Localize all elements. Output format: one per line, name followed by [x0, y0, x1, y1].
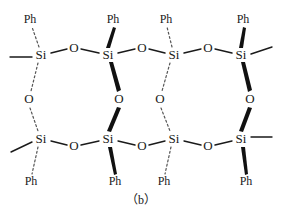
atom-label-o-top-3: O — [203, 40, 212, 55]
bond-si-top4-obridge4-wedge — [241, 62, 252, 92]
atom-label-o-bottom-3: O — [203, 138, 212, 153]
atom-label-o-bridge-2: O — [114, 91, 123, 106]
bond-obridge4-si-bottom4-wedge — [239, 107, 252, 132]
bond-o3-si4-top — [215, 49, 232, 53]
substituent-label-ph-bottom-1: Ph — [25, 174, 38, 188]
substituent-label-ph-top-4: Ph — [237, 12, 250, 26]
bond-si3-o3-bottom — [184, 141, 201, 145]
bond-o1-si2-bottom — [81, 141, 99, 145]
atom-label-si-bottom-1: Si — [36, 131, 47, 146]
bond-si2-o2-bottom — [118, 141, 135, 145]
bond-si-bottom4-ph4-wedge — [241, 147, 248, 175]
bond-si3-o3-top — [184, 49, 201, 53]
substituent-label-ph-top-2: Ph — [107, 12, 120, 26]
bond-o2-si3-top — [149, 49, 165, 53]
structure-svg: Si Si Si Si Si Si Si Si O O O O O O O O — [0, 0, 281, 213]
figure-caption: （b） — [126, 193, 156, 207]
bond-si-top4-ph4-wedge — [239, 27, 246, 48]
atom-label-si-bottom-4: Si — [236, 131, 247, 146]
bond-obridge2-si-bottom2-wedge — [107, 107, 121, 132]
bond-si-top2-obridge2-wedge — [109, 62, 121, 92]
bond-o3-si4-bottom — [215, 141, 232, 145]
substituent-label-ph-top-1: Ph — [24, 12, 37, 26]
terminal-bond-bottom-left — [11, 142, 32, 152]
atom-label-o-bridge-4: O — [245, 91, 254, 106]
atom-label-si-top-4: Si — [236, 47, 247, 62]
substituent-label-ph-top-3: Ph — [160, 12, 173, 26]
substituent-label-ph-bottom-3: Ph — [158, 174, 171, 188]
bond-si-top3-obridge3-dashed — [162, 63, 170, 91]
atom-label-si-top-2: Si — [103, 47, 114, 62]
bond-si-top3-ph3-dashed — [167, 27, 172, 47]
bottom-oxygen-labels: O O O — [69, 138, 212, 153]
atom-label-o-bridge-3: O — [155, 91, 164, 106]
chemical-structure-figure: Si Si Si Si Si Si Si Si O O O O O O O O — [0, 0, 281, 213]
bond-si-bottom3-ph3-dashed — [165, 147, 171, 174]
bond-si1-o1-top — [51, 49, 67, 53]
bond-si-bottom1-ph1-dashed — [32, 147, 38, 174]
bond-si2-o2-top — [118, 49, 135, 53]
atom-label-o-bottom-2: O — [137, 138, 146, 153]
atom-label-si-bottom-3: Si — [169, 131, 180, 146]
atom-label-si-bottom-2: Si — [103, 131, 114, 146]
bond-si-top2-ph2-wedge — [106, 27, 116, 48]
bridging-oxygen-labels: O O O O — [24, 91, 254, 106]
bond-obridge1-si-bottom1-dashed — [30, 108, 38, 131]
top-oxygen-labels: O O O — [69, 40, 212, 55]
terminal-bond-top-right — [251, 47, 272, 54]
substituent-label-ph-bottom-2: Ph — [109, 174, 122, 188]
atom-label-o-bottom-1: O — [69, 138, 78, 153]
atom-label-o-top-2: O — [137, 40, 146, 55]
bond-obridge3-si-bottom3-dashed — [161, 108, 170, 131]
substituent-label-ph-bottom-4: Ph — [240, 174, 253, 188]
atom-label-si-top-1: Si — [36, 47, 47, 62]
atom-label-o-bridge-1: O — [24, 91, 33, 106]
terminal-bonds — [10, 47, 272, 152]
bond-si-top1-obridge1-dashed — [31, 63, 38, 91]
bond-o1-si2-top — [81, 49, 99, 53]
bond-o2-si3-bottom — [149, 141, 165, 145]
atom-label-o-top-1: O — [69, 40, 78, 55]
top-phenyl-labels: Ph Ph Ph Ph — [24, 12, 250, 26]
bond-si-bottom2-ph2-wedge — [108, 147, 117, 175]
bond-si1-o1-bottom — [51, 141, 67, 145]
bottom-phenyl-labels: Ph Ph Ph Ph — [25, 174, 253, 188]
bond-si-top1-ph1-dashed — [32, 27, 39, 47]
atom-label-si-top-3: Si — [169, 47, 180, 62]
